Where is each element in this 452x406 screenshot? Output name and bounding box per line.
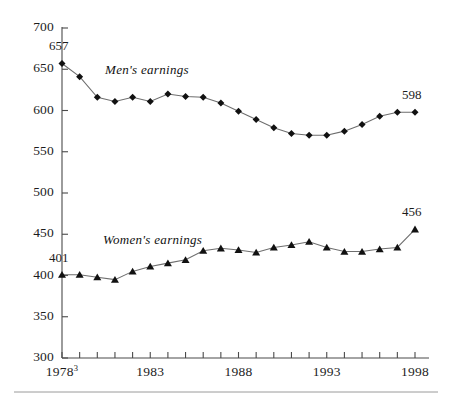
- y-tick-label-650: 650: [10, 60, 54, 76]
- y-tick-label-400: 400: [10, 267, 54, 283]
- y-tick-label-600: 600: [10, 102, 54, 118]
- x-tick-label-text: 1983: [136, 364, 164, 379]
- annotation-456: 456: [402, 204, 422, 220]
- x-tick-label-1998: 1998: [385, 364, 445, 380]
- y-tick-label-300: 300: [10, 349, 54, 365]
- y-tick-label-450: 450: [10, 225, 54, 241]
- x-tick-label-text: 1993: [313, 364, 341, 379]
- y-tick-label-500: 500: [10, 184, 54, 200]
- annotation-598: 598: [402, 87, 422, 103]
- series-label-womens-earnings: Women's earnings: [103, 232, 202, 248]
- earnings-line-chart: 300350400450500550600650700 197831983198…: [0, 0, 452, 406]
- x-tick-label-1993: 1993: [297, 364, 357, 380]
- x-tick-label-1983: 1983: [120, 364, 180, 380]
- chart-plot-area: [0, 0, 452, 406]
- x-tick-label-text: 1998: [401, 364, 429, 379]
- y-tick-label-550: 550: [10, 143, 54, 159]
- x-tick-label-1988: 1988: [209, 364, 269, 380]
- y-tick-label-350: 350: [10, 308, 54, 324]
- x-tick-label-1978: 19783: [32, 364, 92, 380]
- series-label-mens-earnings: Men's earnings: [105, 62, 189, 78]
- y-tick-label-700: 700: [10, 19, 54, 35]
- annotation-657: 657: [49, 38, 69, 54]
- x-tick-label-text: 1988: [225, 364, 253, 379]
- x-tick-label-footnote-marker: 3: [74, 363, 78, 373]
- annotation-401: 401: [49, 250, 69, 266]
- x-tick-label-text: 1978: [46, 364, 74, 379]
